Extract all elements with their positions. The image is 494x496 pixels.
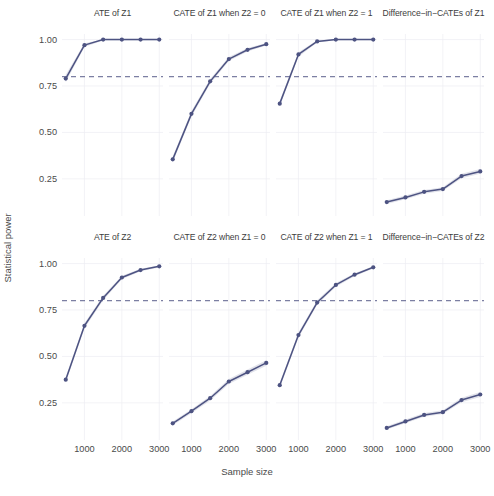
statistical-power-figure: Statistical power Sample size ATE of Z10…: [0, 0, 494, 496]
x-tick-label: 2000: [219, 440, 239, 454]
y-tick-label: 1.00: [39, 259, 62, 269]
facet-panel: CATE of Z1 when Z2 = 1: [273, 8, 380, 246]
y-tick-label: 1.00: [39, 35, 62, 45]
facet-panel: ATE of Z20.250.500.751.00100020003000: [59, 232, 166, 470]
plot-area: 100020003000: [383, 258, 484, 440]
y-tick-label: 0.25: [39, 398, 62, 408]
plot-area: 100020003000: [169, 258, 270, 440]
facet-title: ATE of Z2: [59, 232, 166, 242]
y-tick-label: 0.75: [39, 81, 62, 91]
x-tick-label: 3000: [470, 440, 490, 454]
x-tick-label: 2000: [112, 440, 132, 454]
facet-panel: CATE of Z2 when Z1 = 1100020003000: [273, 232, 380, 470]
y-tick-label: 0.50: [39, 127, 62, 137]
facet-title: CATE of Z1 when Z2 = 1: [273, 8, 380, 18]
plot-area: [169, 34, 270, 216]
plot-area: [383, 34, 484, 216]
x-tick-label: 1000: [395, 440, 415, 454]
facet-title: Difference−in−CATEs of Z2: [380, 232, 487, 242]
facet-title: CATE of Z1 when Z2 = 0: [166, 8, 273, 18]
x-tick-label: 2000: [326, 440, 346, 454]
x-tick-label: 2000: [433, 440, 453, 454]
facet-title: Difference−in−CATEs of Z1: [380, 8, 487, 18]
facet-title: ATE of Z1: [59, 8, 166, 18]
x-tick-label: 1000: [181, 440, 201, 454]
x-tick-label: 1000: [74, 440, 94, 454]
facet-panel: CATE of Z2 when Z1 = 0100020003000: [166, 232, 273, 470]
facet-panel: CATE of Z1 when Z2 = 0: [166, 8, 273, 246]
y-tick-label: 0.75: [39, 305, 62, 315]
panel-row-bottom: ATE of Z20.250.500.751.00100020003000CAT…: [0, 232, 494, 470]
y-tick-label: 0.50: [39, 351, 62, 361]
facet-title: CATE of Z2 when Z1 = 0: [166, 232, 273, 242]
facet-title: CATE of Z2 when Z1 = 1: [273, 232, 380, 242]
facet-panel: Difference−in−CATEs of Z2100020003000: [380, 232, 487, 470]
panel-row-top: ATE of Z10.250.500.751.00CATE of Z1 when…: [0, 8, 494, 246]
facet-panel: Difference−in−CATEs of Z1: [380, 8, 487, 246]
x-tick-label: 1000: [288, 440, 308, 454]
plot-area: 0.250.500.751.00: [62, 34, 163, 216]
plot-area: 100020003000: [276, 258, 377, 440]
plot-area: [276, 34, 377, 216]
facet-panel: ATE of Z10.250.500.751.00: [59, 8, 166, 246]
y-tick-label: 0.25: [39, 174, 62, 184]
plot-area: 0.250.500.751.00100020003000: [62, 258, 163, 440]
